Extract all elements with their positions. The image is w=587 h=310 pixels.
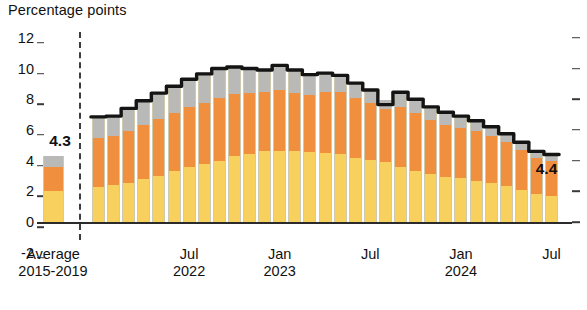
bar-segment-lower [228,156,241,222]
x-tick-label-month: Jul [173,246,205,263]
bar-segment-upper [198,74,211,103]
bar-segment-middle [470,131,483,180]
bar-segment-lower [424,174,437,222]
bar-segment-lower [454,178,467,222]
bar-segment-lower [183,167,196,221]
bar-segment-upper [319,73,332,92]
bar-segment-middle [349,98,362,158]
stacked-bar [288,70,301,222]
y-tick-label: 12 [0,30,34,46]
bar-segment-lower [319,153,332,222]
y-tick-mark [37,73,44,75]
y-tick-mark [37,103,44,105]
bar-segment-middle [213,98,226,161]
bar-segment-middle [258,92,271,151]
x-tick-label-month: Jan [264,246,296,263]
x-tick-label: Jul [542,246,561,263]
bar-segment-lower [213,161,226,222]
bar-segment-upper [152,93,165,119]
x-tick-label: Jan2023 [264,246,296,280]
stacked-bar [122,108,135,222]
y-tick-mark-right [572,37,580,39]
stacked-bar [243,69,256,223]
bar-segment-middle [137,125,150,179]
stacked-bar [92,117,105,222]
bar-segment-middle [92,138,105,187]
stacked-bar [137,101,150,222]
bar-segment-middle [500,142,513,186]
bar-segment-lower [243,154,256,222]
average-series-divider [79,32,81,240]
stacked-bar [319,73,332,222]
bar-segment-upper [439,112,452,124]
bar-segment-middle [303,95,316,152]
bar-segment-lower [364,160,377,222]
stacked-bar [515,142,528,222]
y-tick-label: 0 [0,214,34,230]
y-tick-mark-right [572,191,580,193]
bar-segment-middle [394,107,407,167]
bar-segment-middle [379,109,392,162]
stacked-bar [409,99,422,222]
x-tick-label: Average2015-2019 [18,246,87,280]
y-tick-label: 8 [0,91,34,107]
bar-segment-lower [394,167,407,222]
percentage-points-stacked-bar-chart: Percentage points 121086420-2 Average201… [0,0,587,310]
bar-segment-upper [454,116,467,128]
bar-segment-upper [168,86,181,113]
bar-segment-middle [409,113,422,171]
bar-segment-upper [470,121,483,132]
stacked-bar [424,107,437,222]
bar-segment-upper [409,99,422,113]
stacked-bar [349,83,362,222]
bar-segment-middle [122,131,135,183]
x-tick-label-year: 2023 [264,263,296,280]
bar-segment-middle [288,93,301,151]
stacked-bar [394,92,407,222]
bar-segment-lower [303,152,316,222]
bar-segment-upper [273,65,286,90]
bar-segment-lower [152,176,165,222]
x-tick-label-year: 2022 [173,263,205,280]
bar-segment-middle [515,150,528,190]
bar-segment-lower [107,185,120,222]
stacked-bar [152,93,165,222]
stacked-bar [107,116,120,222]
bar-segment-lower [545,196,558,222]
bar-segment-upper [303,75,316,96]
bar-segment-upper [334,75,347,92]
x-tick-label-month: Jul [361,246,380,263]
bar-segment-middle [168,113,181,171]
bar-segment-middle [152,119,165,176]
stacked-bar [198,74,211,222]
zero-baseline [37,222,572,224]
y-tick-mark-right [572,160,580,162]
bar-segment-upper [243,69,256,94]
bar-segment-lower [92,187,105,222]
stacked-bar [334,75,347,222]
stacked-bar [454,116,467,222]
bar-segment-upper [379,100,392,109]
bar-segment-lower [334,154,347,222]
stacked-bar [213,69,226,223]
y-tick-mark-right [572,221,580,223]
bar-segment-lower [409,171,422,222]
bar-segment-lower [288,151,301,222]
bar-segment-middle [228,94,241,156]
bar-segment-upper [107,116,120,136]
stacked-bar [379,100,392,222]
bar-segment-lower [500,186,513,222]
x-tick-label-month: Jul [542,246,561,263]
bar-segment-middle [485,136,498,183]
stacked-bar [273,65,286,222]
stacked-bar [228,67,241,222]
bar-segment-lower [198,164,211,222]
bar-segment-upper [43,156,64,167]
stacked-bar [364,90,377,222]
bar-segment-upper [394,92,407,107]
bar-segment-upper [137,101,150,125]
bar-segment-middle [364,103,377,160]
bar-segment-upper [485,127,498,136]
bar-segment-upper [213,69,226,99]
stacked-bar [183,79,196,222]
